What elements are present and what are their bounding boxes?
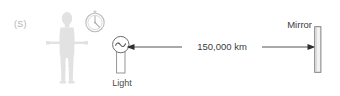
mirror-icon bbox=[314, 26, 322, 73]
physics-diagram-canvas: (S) bbox=[0, 0, 340, 96]
distance-value-label: 150,000 km bbox=[182, 40, 262, 53]
observer-label: (S) bbox=[14, 18, 27, 30]
clock-icon bbox=[84, 10, 106, 34]
light-source-label: Light bbox=[104, 78, 140, 89]
mirror-label: Mirror bbox=[272, 19, 312, 31]
